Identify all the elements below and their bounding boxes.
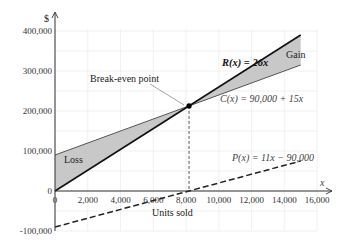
loss-region-label: Loss	[64, 154, 83, 165]
break-even-label: Break-even point	[90, 73, 159, 84]
revenue-label: R(x) = 26x	[221, 57, 268, 69]
x-tick-label: 12,000	[239, 195, 264, 205]
y-tick-label: 300,000	[23, 66, 53, 76]
x-axis-label: Units sold	[152, 207, 193, 218]
break-even-leader-line	[150, 84, 184, 105]
x-tick-label: 4,000	[110, 195, 131, 205]
x-axis-symbol: x	[319, 177, 325, 188]
gain-region-label: Gain	[286, 49, 305, 60]
y-tick-label: 200,000	[23, 106, 53, 116]
x-tick-label: 2,000	[78, 195, 99, 205]
x-tick-label: 6,000	[143, 195, 164, 205]
y-axis-symbol: $	[44, 13, 49, 24]
x-tick-label: 14,000	[272, 195, 297, 205]
break-even-point	[186, 103, 191, 108]
y-tick-label: 100,000	[23, 146, 53, 156]
x-tick-label: 16,000	[305, 195, 330, 205]
x-tick-label: 8,000	[176, 195, 197, 205]
x-tick-label: 10,000	[206, 195, 231, 205]
cost-label: C(x) = 90,000 + 15x	[220, 93, 304, 105]
x-tick-label: 0	[53, 195, 58, 205]
profit-label: P(x) = 11x − 90,000	[231, 152, 314, 164]
y-tick-label: 400,000	[23, 26, 53, 36]
y-tick-label: 0	[48, 186, 53, 196]
y-tick-label: -100,000	[20, 226, 53, 236]
break-even-chart: 02,0004,0006,0008,00010,00012,00014,0001…	[0, 0, 350, 247]
